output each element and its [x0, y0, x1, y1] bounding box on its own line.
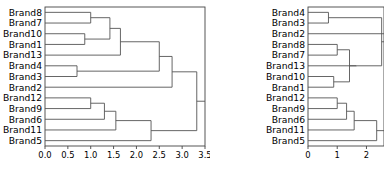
leaf-label: Brand8	[272, 39, 305, 50]
leaf-label: Brand3	[9, 71, 42, 82]
dendrogram-link	[77, 42, 159, 71]
leaf-label: Brand1	[9, 39, 42, 50]
dendrogram-panel-right: Brand4Brand3Brand2Brand8Brand7Brand13Bra…	[255, 0, 384, 175]
dendrogram-panel-left: Brand8Brand7Brand10Brand1Brand13Brand4Br…	[0, 0, 210, 175]
leaf-label: Brand13	[3, 49, 42, 60]
dendrogram-link	[151, 72, 197, 131]
leaf-label: Brand12	[266, 92, 305, 103]
dendrogram-links	[45, 12, 205, 140]
leaf-label: Brand4	[272, 7, 305, 18]
dendrogram-link	[308, 111, 354, 130]
x-tick-label: 0.0	[38, 150, 51, 160]
dendrogram-links	[308, 12, 384, 140]
x-tick-label: 2.5	[153, 150, 166, 160]
leaf-label: Brand4	[9, 60, 42, 71]
leaf-label: Brand13	[266, 60, 305, 71]
leaf-label: Brand10	[3, 28, 42, 39]
leaf-label: Brand1	[272, 82, 305, 93]
leaf-label: Brand3	[272, 17, 305, 28]
dendrogram-link	[308, 12, 328, 23]
x-tick-label: 0	[305, 150, 310, 160]
leaf-label: Brand12	[3, 92, 42, 103]
dendrogram-link	[308, 77, 334, 88]
leaf-label: Brand6	[9, 114, 42, 125]
leaf-label: Brand5	[9, 135, 42, 146]
dendrogram-link	[328, 18, 381, 66]
dendrogram-link	[308, 103, 347, 119]
x-tick-label: 2	[364, 150, 369, 160]
dendrogram-plot-right: Brand4Brand3Brand2Brand8Brand7Brand13Bra…	[255, 0, 384, 175]
dendrogram-link	[85, 18, 110, 39]
leaf-label: Brand2	[9, 82, 42, 93]
dendrogram-link	[45, 66, 77, 77]
dendrogram-link	[45, 34, 85, 45]
x-tick-label: 2.0	[130, 150, 143, 160]
dendrogram-plot-left: Brand8Brand7Brand10Brand1Brand13Brand4Br…	[0, 0, 210, 175]
dendrogram-link	[45, 121, 151, 141]
leaf-label: Brand11	[266, 124, 305, 135]
dendrogram-link	[45, 12, 91, 23]
x-tick-label: 1	[335, 150, 340, 160]
dendrogram-link	[45, 111, 116, 130]
leaf-label: Brand11	[3, 124, 42, 135]
dendrogram-link	[45, 103, 104, 119]
x-tick-label: 3.5	[198, 150, 210, 160]
x-tick-label: 1.0	[84, 150, 97, 160]
dendrogram-link	[45, 98, 91, 109]
leaf-label: Brand5	[272, 135, 305, 146]
leaf-label: Brand9	[272, 103, 305, 114]
dendrogram-figure: Brand8Brand7Brand10Brand1Brand13Brand4Br…	[0, 0, 384, 175]
dendrogram-link	[308, 121, 377, 141]
leaf-label: Brand8	[9, 7, 42, 18]
x-tick-label: 0.5	[61, 150, 74, 160]
x-tick-label: 3.0	[175, 150, 188, 160]
leaf-label: Brand10	[266, 71, 305, 82]
dendrogram-link	[45, 56, 172, 87]
leaf-label: Brand7	[9, 17, 42, 28]
dendrogram-link	[308, 44, 337, 55]
dendrogram-link	[308, 98, 337, 109]
dendrogram-link	[45, 28, 120, 55]
leaf-label: Brand9	[9, 103, 42, 114]
x-tick-label: 1.5	[107, 150, 120, 160]
leaf-label: Brand6	[272, 114, 305, 125]
leaf-label: Brand2	[272, 28, 305, 39]
leaf-label: Brand7	[272, 49, 305, 60]
